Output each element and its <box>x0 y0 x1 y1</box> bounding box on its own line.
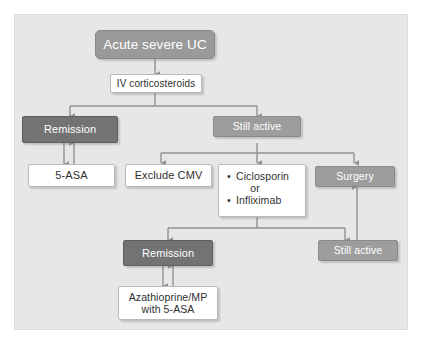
bullet-icon: • <box>227 170 236 182</box>
node-remission-top[interactable]: Remission <box>22 116 118 143</box>
drug-label-infliximab: Infliximab <box>236 194 281 206</box>
node-ciclosporin-infliximab[interactable]: •Ciclosporin or •Infliximab <box>218 164 306 217</box>
node-azathioprine-mp[interactable]: Azathioprine/MP with 5-ASA <box>118 286 218 320</box>
node-remission-bottom[interactable]: Remission <box>123 240 213 266</box>
drug-label-ciclosporin: Ciclosporin <box>236 170 289 182</box>
node-iv-corticosteroids[interactable]: IV corticosteroids <box>110 74 202 93</box>
drug-option-ciclosporin: •Ciclosporin <box>227 170 297 182</box>
node-exclude-cmv[interactable]: Exclude CMV <box>125 164 212 187</box>
node-still-active-top[interactable]: Still active <box>213 116 301 137</box>
node-surgery[interactable]: Surgery <box>315 166 395 187</box>
bullet-icon: • <box>227 194 236 206</box>
azathioprine-line-1: Azathioprine/MP <box>129 291 208 303</box>
node-acute-severe-uc[interactable]: Acute severe UC <box>95 30 215 59</box>
drug-or-label: or <box>227 182 297 194</box>
drug-option-infliximab: •Infliximab <box>227 194 297 206</box>
azathioprine-line-2: with 5-ASA <box>142 303 195 315</box>
diagram-canvas: Acute severe UC IV corticosteroids Remis… <box>0 0 421 343</box>
node-still-active-bottom[interactable]: Still active <box>318 240 398 261</box>
node-5-asa[interactable]: 5-ASA <box>28 164 115 187</box>
